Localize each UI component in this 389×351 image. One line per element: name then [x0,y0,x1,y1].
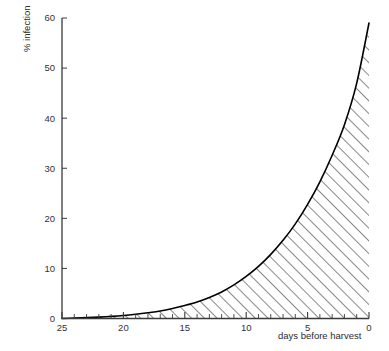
x-tick-label: 0 [366,322,371,333]
y-tick-label: 40 [44,113,55,124]
x-tick-label: 25 [57,322,68,333]
chart-canvas: 0102030405060 2520151050 % infection day… [0,0,389,351]
y-tick-label: 10 [44,263,55,274]
y-tick-label: 0 [50,313,55,324]
y-tick-label: 50 [44,62,55,73]
x-axis-title: days before harvest [278,330,362,341]
y-tick-label: 30 [44,163,55,174]
y-tick-label: 20 [44,213,55,224]
infection-curve-chart: 0102030405060 2520151050 % infection day… [0,0,389,351]
y-axis-title: % infection [21,6,32,52]
x-tick-label: 20 [118,322,129,333]
x-tick-label: 15 [180,322,191,333]
x-tick-label: 10 [241,322,252,333]
y-tick-label: 60 [44,12,55,23]
